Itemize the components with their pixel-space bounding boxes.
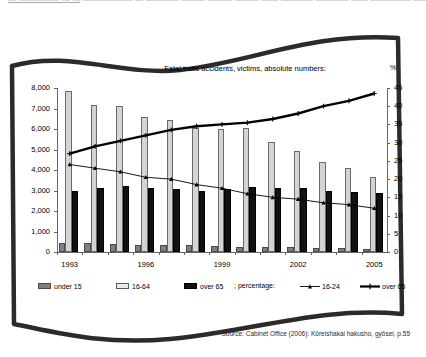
line-marker xyxy=(118,138,123,143)
line-marker xyxy=(245,120,250,125)
y-axis-left-tick-label: 8,000 xyxy=(8,83,50,92)
legend-item-p1624[interactable]: 16-24 xyxy=(300,282,340,290)
y-axis-right-tick-label: 20 xyxy=(394,174,402,183)
line-marker xyxy=(270,117,275,122)
y-axis-right-tick-label: 5 xyxy=(394,229,398,238)
y-axis-left-tick-label: 4,000 xyxy=(8,165,50,174)
y-axis-right-tick-label: 35 xyxy=(394,119,402,128)
y-axis-right-tick-label: 10 xyxy=(394,211,402,220)
legend-label: 16-24 xyxy=(322,283,340,290)
chart-legend: under 1516-64over 65; percentage:16-24ov… xyxy=(38,282,398,296)
legend-label: over 65 xyxy=(382,283,405,290)
legend-item-b1664[interactable]: 16-64 xyxy=(116,282,150,290)
y-axis-right-tick-label: 0 xyxy=(394,247,398,256)
percentage-lines xyxy=(57,88,387,252)
y-axis-left-tick-label: 3,000 xyxy=(8,186,50,195)
chart-area: Fatal trafic accidents, victims, absolut… xyxy=(0,14,426,357)
y-axis-right-tick-label: 40 xyxy=(394,101,402,110)
x-axis-tick-label: 2005 xyxy=(354,260,394,269)
y-axis-right-tick-label: 25 xyxy=(394,156,402,165)
x-axis-tick xyxy=(362,252,363,255)
x-axis-tick-label: 1996 xyxy=(126,260,166,269)
plot-area xyxy=(57,88,387,252)
chart-title: Fatal trafic accidents, victims, absolut… xyxy=(120,64,370,73)
legend-swatch-o65 xyxy=(184,283,197,289)
legend-percentage-label: ; percentage: xyxy=(234,282,275,289)
source-caption: Source: Cabinet Office (2006): Kōreishak… xyxy=(0,330,410,337)
x-axis-tick xyxy=(184,252,185,255)
x-axis-tick xyxy=(133,252,134,255)
x-axis-tick xyxy=(235,252,236,255)
legend-line-swatch-p1624 xyxy=(300,283,320,290)
y-axis-left-tick-label: 1,000 xyxy=(8,227,50,236)
legend-item-po65[interactable]: over 65 xyxy=(360,282,405,290)
legend-swatch-u15 xyxy=(38,283,51,289)
line-marker xyxy=(169,128,174,133)
x-axis-tick-label: 2002 xyxy=(278,260,318,269)
y-axis-left-tick-label: 7,000 xyxy=(8,104,50,113)
x-axis-tick xyxy=(209,252,210,255)
y-axis-right-tick xyxy=(387,252,390,253)
y-axis-left-tick-label: 5,000 xyxy=(8,145,50,154)
x-axis-tick xyxy=(108,252,109,255)
y-axis-right-tick-label: 30 xyxy=(394,138,402,147)
line-marker xyxy=(194,124,199,129)
percent-axis-label: % xyxy=(390,64,396,71)
x-axis-tick-label: 1999 xyxy=(202,260,242,269)
x-axis-tick-label: 1993 xyxy=(50,260,90,269)
y-axis-right-tick-label: 15 xyxy=(394,192,402,201)
legend-swatch-b1664 xyxy=(116,283,129,289)
y-axis-left-tick-label: 6,000 xyxy=(8,124,50,133)
y-axis-left-tick-label: 2,000 xyxy=(8,206,50,215)
cut-text-line: ― ――――― ― ― ―――――― ― ―――― ――― ――― ――― ――… xyxy=(8,0,418,4)
legend-label: over 65 xyxy=(200,283,223,290)
x-axis-tick xyxy=(311,252,312,255)
x-axis-tick xyxy=(336,252,337,255)
x-axis-tick xyxy=(159,252,160,255)
y-axis-left-tick-label: 0 xyxy=(8,247,50,256)
line-marker xyxy=(220,122,225,127)
legend-label: 16-64 xyxy=(132,283,150,290)
x-axis-tick xyxy=(82,252,83,255)
x-axis-line xyxy=(57,252,387,253)
top-cut-text-strip: ― ――――― ― ― ―――――― ― ―――― ――― ――― ――― ――… xyxy=(0,0,426,14)
line-marker xyxy=(143,133,148,138)
y-axis-right-tick-label: 45 xyxy=(394,83,402,92)
legend-item-o65[interactable]: over 65 xyxy=(184,282,223,290)
legend-item-u15[interactable]: under 15 xyxy=(38,282,82,290)
legend-label: under 15 xyxy=(54,283,82,290)
x-axis-tick xyxy=(260,252,261,255)
x-axis-tick xyxy=(285,252,286,255)
legend-line-swatch-po65 xyxy=(360,283,380,290)
x-axis-tick xyxy=(57,252,58,255)
